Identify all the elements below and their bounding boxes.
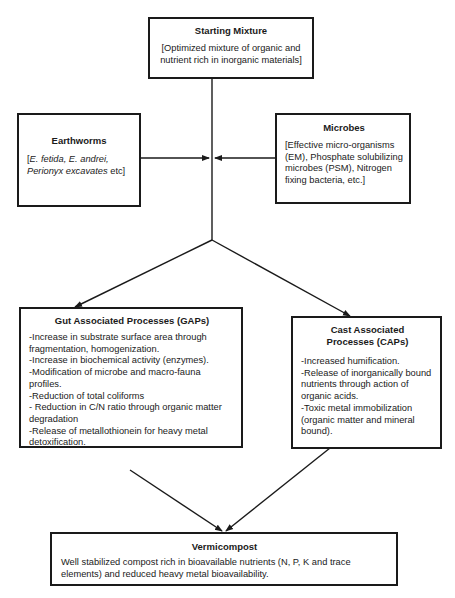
- gaps-list: -Increase in substrate surface area thro…: [29, 332, 235, 449]
- starting-mixture-title: Starting Mixture: [158, 25, 304, 37]
- caps-to-vermicompost-arrow: [226, 448, 330, 531]
- caps-item: -Release of inorganically bound nutrient…: [301, 368, 434, 403]
- gaps-arrow: [75, 240, 212, 307]
- gaps-item: -Reduction of total coliforms: [29, 391, 235, 403]
- caps-list: -Increased humification. -Release of ino…: [301, 356, 434, 438]
- microbes-text: [Effective micro-organisms (EM), Phospha…: [285, 140, 403, 186]
- earthworms-suffix: etc]: [108, 166, 126, 176]
- earthworm-species: E. fetida, E. andrei, Perionyx excavates: [27, 154, 109, 176]
- earthworms-box: Earthworms [E. fetida, E. andrei, Perion…: [17, 113, 141, 207]
- gaps-item: -Increase in substrate surface area thro…: [29, 332, 235, 355]
- gaps-item: -Release of metallothionein for heavy me…: [29, 426, 235, 449]
- gaps-box: Gut Associated Processes (GAPs) -Increas…: [19, 307, 243, 448]
- caps-item: -Increased humification.: [301, 356, 434, 368]
- gaps-item: -Modification of microbe and macro-fauna…: [29, 367, 235, 390]
- starting-mixture-text: [Optimized mixture of organic and nutrie…: [158, 42, 304, 66]
- caps-arrow: [212, 240, 350, 316]
- caps-item: -Toxic metal immobilization (organic mat…: [301, 403, 434, 438]
- starting-mixture-box: Starting Mixture [Optimized mixture of o…: [148, 17, 314, 79]
- gaps-item: -Increase in biochemical activity (enzym…: [29, 355, 235, 367]
- caps-title: Cast Associated Processes (CAPs): [301, 324, 434, 348]
- microbes-box: Microbes [Effective micro-organisms (EM)…: [275, 113, 411, 204]
- gaps-to-vermicompost-arrow: [130, 470, 222, 531]
- gaps-title: Gut Associated Processes (GAPs): [29, 315, 235, 327]
- vermicompost-text: Well stabilized compost rich in bioavail…: [61, 557, 388, 580]
- gaps-item: - Reduction in C/N ratio through organic…: [29, 402, 235, 425]
- vermicompost-box: Vermicompost Well stabilized compost ric…: [50, 532, 398, 586]
- earthworms-title: Earthworms: [27, 135, 131, 147]
- earthworms-text: [E. fetida, E. andrei, Perionyx excavate…: [27, 153, 131, 177]
- caps-box: Cast Associated Processes (CAPs) -Increa…: [291, 316, 442, 449]
- vermicompost-title: Vermicompost: [61, 541, 388, 553]
- microbes-title: Microbes: [285, 122, 403, 134]
- connector-lines: [0, 0, 455, 598]
